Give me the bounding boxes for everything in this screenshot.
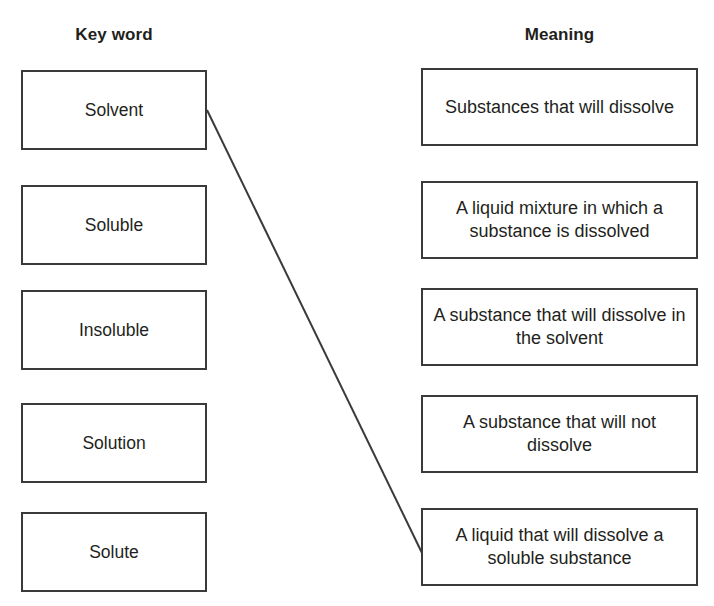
- key-word-box-solute[interactable]: Solute: [21, 512, 207, 592]
- meaning-box-substances-that-will-dissolve[interactable]: Substances that will dissolve: [421, 68, 698, 146]
- connector-line-solvent-to-liquid-that-will-dissolve[interactable]: [207, 110, 422, 553]
- column-heading-key-word: Key word: [21, 25, 207, 45]
- key-word-label: Solute: [89, 541, 139, 563]
- meaning-label: A liquid that will dissolve a soluble su…: [429, 524, 690, 569]
- meaning-box-liquid-mixture-in-which-a-substance-is-dissolved[interactable]: A liquid mixture in which a substance is…: [421, 181, 698, 259]
- key-word-label: Insoluble: [79, 319, 149, 341]
- key-word-box-solvent[interactable]: Solvent: [21, 70, 207, 150]
- matching-worksheet: Key word Meaning Solvent Soluble Insolub…: [0, 0, 714, 606]
- meaning-box-substance-that-will-dissolve-in-the-solvent[interactable]: A substance that will dissolve in the so…: [421, 288, 698, 366]
- meaning-box-liquid-that-will-dissolve-a-soluble-substance[interactable]: A liquid that will dissolve a soluble su…: [421, 508, 698, 586]
- meaning-label: A substance that will dissolve in the so…: [429, 304, 690, 349]
- meaning-label: A substance that will not dissolve: [429, 411, 690, 456]
- key-word-label: Solvent: [85, 99, 143, 121]
- key-word-label: Solution: [82, 432, 145, 454]
- meaning-label: A liquid mixture in which a substance is…: [429, 197, 690, 242]
- key-word-box-soluble[interactable]: Soluble: [21, 185, 207, 265]
- meaning-label: Substances that will dissolve: [445, 96, 674, 119]
- key-word-box-solution[interactable]: Solution: [21, 403, 207, 483]
- key-word-box-insoluble[interactable]: Insoluble: [21, 290, 207, 370]
- key-word-label: Soluble: [85, 214, 143, 236]
- meaning-box-substance-that-will-not-dissolve[interactable]: A substance that will not dissolve: [421, 395, 698, 473]
- column-heading-meaning: Meaning: [421, 25, 698, 45]
